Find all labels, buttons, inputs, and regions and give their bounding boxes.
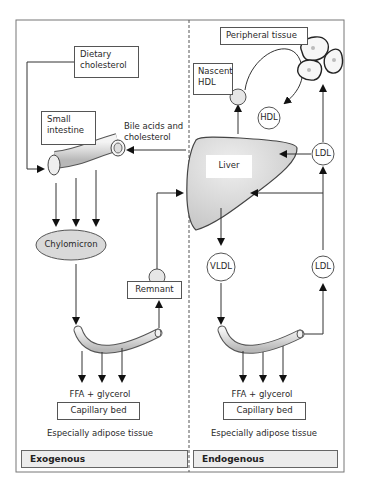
ldl-lower-label: LDL [312,261,334,272]
dietary-label-1: Dietary [80,49,133,60]
hdl-label: HDL [258,112,280,123]
ffa-glycerol-left: FFA + glycerol [60,389,140,400]
liver-label: Liver [206,160,252,171]
liver-shape [187,137,297,230]
dietary-cholesterol-box: Dietary cholesterol [74,46,139,78]
adipose-left: Especially adipose tissue [40,428,160,439]
capillary-bed-left: Capillary bed [57,402,140,420]
ffa-glycerol-right: FFA + glycerol [222,389,302,400]
nascent-label-1: Nascent [198,66,228,77]
dietary-label-2: cholesterol [80,60,133,71]
small-intestine-label-1: Small [47,114,90,125]
chylomicron-label: Chylomicron [36,239,106,250]
vldl-label: VLDL [207,261,235,272]
capillary-tube-left [78,329,161,349]
nascent-hdl-box: Nascent HDL [193,63,233,95]
bile-label-2: cholesterol [124,132,183,143]
capillary-bed-right: Capillary bed [223,402,306,420]
small-intestine-tube [48,140,125,175]
ldl-upper-label: LDL [312,148,334,159]
remnant-box: Remnant [127,281,182,299]
exogenous-label: Exogenous [21,450,188,468]
endogenous-label: Endogenous [193,450,338,468]
peripheral-tissue-box: Peripheral tissue [220,27,308,45]
bile-label-1: Bile acids and [124,121,183,132]
nascent-label-2: HDL [198,77,228,88]
bile-acids-label: Bile acids and cholesterol [124,121,183,143]
adipose-right: Especially adipose tissue [202,428,326,439]
small-intestine-box: Small intestine [41,111,96,145]
capillary-tube-right [222,330,303,349]
small-intestine-label-2: intestine [47,125,90,136]
